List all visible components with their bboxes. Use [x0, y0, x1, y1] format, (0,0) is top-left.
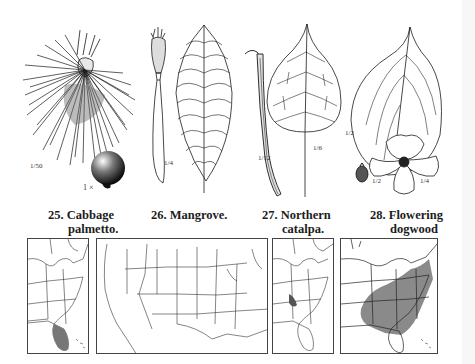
scale-label: 1/4 [164, 160, 173, 167]
scale-label: 1 × [83, 184, 94, 191]
mangrove-leaf-illustration [172, 23, 237, 195]
scale-label: 1/4 [420, 178, 429, 185]
caption-name: Mangrove. [170, 208, 228, 222]
caption-number: 28. [370, 208, 386, 222]
caption-name-line2: dogwood [370, 222, 443, 236]
range-map-flowering-dogwood [340, 238, 438, 354]
dogwood-fruit-illustration [355, 163, 369, 183]
caption-name-line2: catalpa. [262, 222, 331, 236]
caption-flowering-dogwood: 28. Flowering dogwood [370, 208, 443, 236]
caption-name: Northern [281, 208, 331, 222]
caption-name-line2: palmetto. [48, 222, 118, 236]
scale-label: 1/2 [345, 130, 354, 137]
caption-number: 25. [48, 208, 64, 222]
caption-cabbage-palmetto: 25. Cabbage palmetto. [48, 208, 118, 236]
caption-northern-catalpa: 27. Northern catalpa. [262, 208, 331, 236]
caption-mangrove: 26. Mangrove. [151, 208, 228, 222]
caption-number: 26. [151, 208, 167, 222]
range-map-mangrove [96, 238, 268, 354]
scale-label: 1/6 [313, 145, 322, 152]
scale-label: 1/50 [30, 163, 42, 170]
caption-name: Cabbage [67, 208, 114, 222]
range-map-cabbage-palmetto [27, 238, 89, 354]
caption-number: 27. [262, 208, 278, 222]
scale-label: 1/2 [372, 178, 381, 185]
cabbage-palmetto-fruit-illustration [88, 150, 128, 192]
range-map-northern-catalpa [272, 238, 334, 354]
catalpa-leaf-illustration [265, 22, 345, 197]
dogwood-flower-illustration [368, 130, 440, 198]
page-edge [462, 0, 475, 364]
cabbage-palmetto-leaf-illustration [15, 25, 140, 165]
caption-name: Flowering [389, 208, 443, 222]
